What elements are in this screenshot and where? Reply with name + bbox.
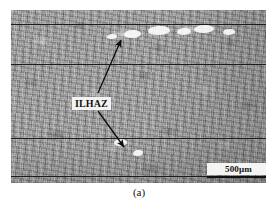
micrograph-image: ILHAZ 500μm: [11, 10, 266, 183]
scale-bar-label: 500μm: [207, 163, 266, 175]
bead-boundary-3: [11, 138, 266, 139]
scale-bar: 500μm: [207, 163, 266, 178]
figure-caption: (a): [0, 186, 278, 198]
scale-bar-rule: [207, 176, 266, 178]
bead-boundary-1: [11, 24, 266, 25]
bead-boundary-2: [11, 64, 266, 65]
figure-panel: ILHAZ 500μm (a): [0, 0, 278, 208]
ilhaz-annotation-label: ILHAZ: [72, 97, 111, 110]
